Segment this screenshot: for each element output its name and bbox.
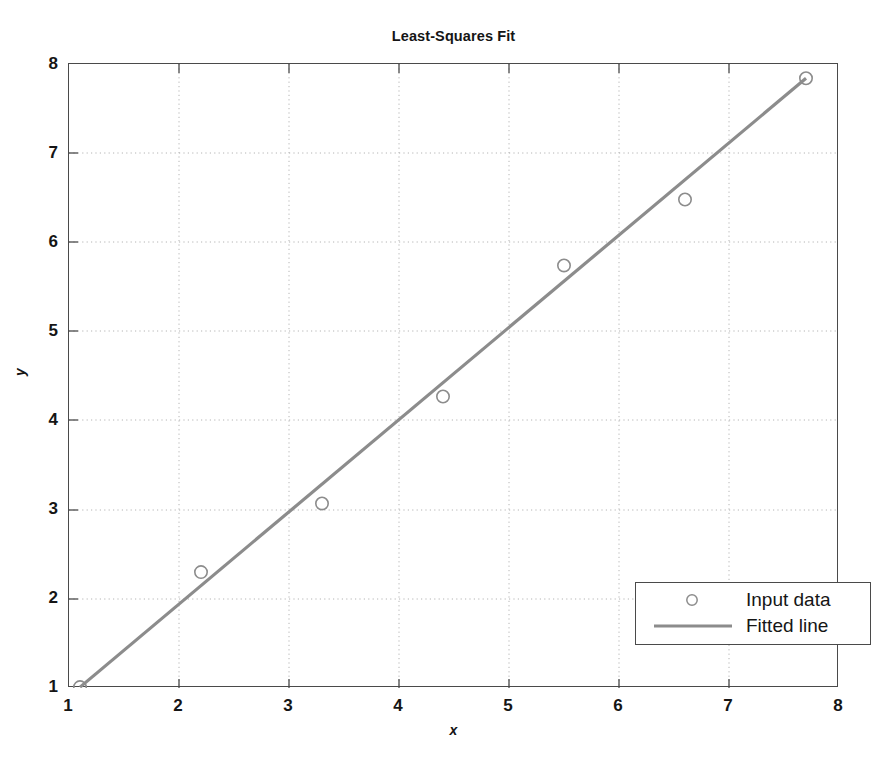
x-tick-label-4: 4	[378, 697, 418, 714]
y-tick-label-6: 6	[14, 233, 58, 250]
legend-marker-line-icon	[644, 612, 740, 640]
gridlines-horizontal	[69, 153, 839, 599]
legend-label-fitted-line: Fitted line	[746, 612, 866, 640]
y-tick-label-3: 3	[14, 500, 58, 517]
chart-title-text: Least-Squares Fit	[392, 28, 515, 44]
x-tick-label-2: 2	[158, 697, 198, 714]
legend-entry-fitted-line[interactable]: Fitted line	[636, 612, 872, 640]
x-tick-label-6: 6	[598, 697, 638, 714]
legend-marker-circle-icon	[644, 586, 740, 614]
chart-title: Least-Squares Fit	[0, 28, 881, 44]
y-axis-label: y	[12, 368, 28, 376]
y-tick-label-1: 1	[14, 678, 58, 695]
x-tick-label-7: 7	[708, 697, 748, 714]
figure-canvas: Least-Squares Fit 8 7 6 5 4 3 2 1 1 2 3 …	[0, 0, 881, 767]
x-tick-label-1: 1	[48, 697, 88, 714]
y-tick-label-7: 7	[14, 144, 58, 161]
y-tick-label-8: 8	[14, 55, 58, 72]
y-tick-label-5: 5	[14, 322, 58, 339]
x-tick-label-3: 3	[268, 697, 308, 714]
legend-entry-input-data[interactable]: Input data	[636, 586, 872, 614]
y-tick-label-4: 4	[14, 411, 58, 428]
y-tick-label-2: 2	[14, 589, 58, 606]
tick-marks	[69, 64, 729, 688]
plot-area: Input data Fitted line	[68, 63, 838, 687]
x-axis-label: x	[0, 722, 881, 738]
legend-label-input-data: Input data	[746, 586, 866, 614]
data-point-marker	[558, 259, 570, 271]
legend-box[interactable]: Input data Fitted line	[635, 582, 871, 645]
data-point-marker	[316, 497, 328, 509]
x-axis-label-text: x	[450, 722, 458, 738]
x-tick-label-8: 8	[818, 697, 858, 714]
data-point-marker	[679, 193, 691, 205]
data-point-marker	[437, 390, 449, 402]
data-point-marker	[195, 566, 207, 578]
x-tick-label-5: 5	[488, 697, 528, 714]
